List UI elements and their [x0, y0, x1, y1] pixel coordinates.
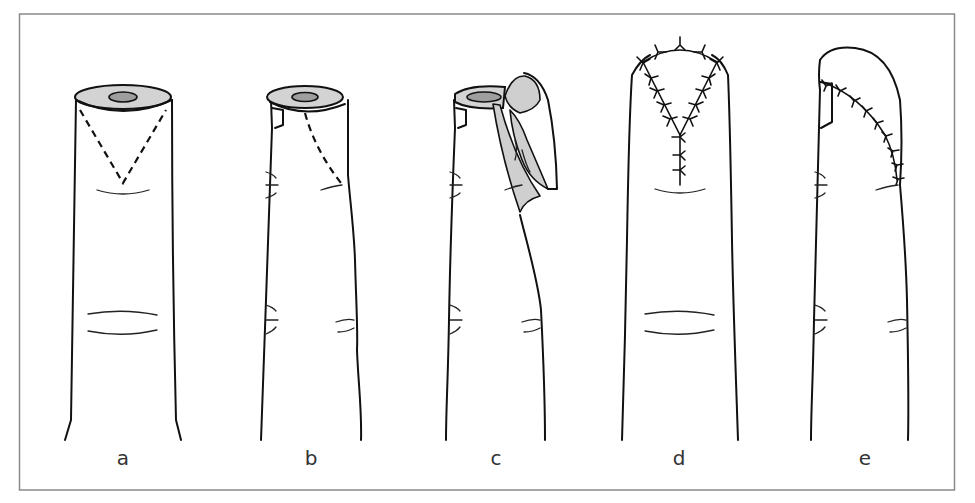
panel-b — [261, 86, 361, 440]
panel-label-d: d — [673, 446, 686, 470]
panel-e — [811, 48, 908, 441]
panel-c — [446, 73, 557, 440]
panel-label-c: c — [491, 446, 502, 470]
panel-a — [65, 85, 181, 440]
panel-d — [622, 37, 738, 440]
panel-label-e: e — [859, 446, 871, 470]
panel-label-a: a — [117, 446, 129, 470]
fingertip-flap-diagram: a b c d e — [0, 0, 975, 503]
panel-label-b: b — [305, 446, 318, 470]
